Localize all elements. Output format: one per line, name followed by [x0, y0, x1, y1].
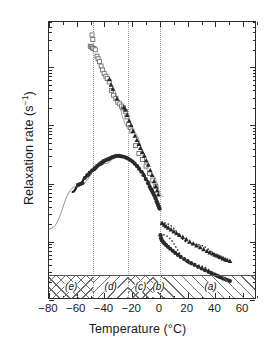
data-point: [99, 64, 103, 68]
x-axis-label: Temperature (°C): [0, 322, 275, 336]
region-label: (b): [153, 282, 164, 292]
data-point: [93, 48, 97, 52]
data-point: [97, 60, 101, 64]
figure-root: Relaxation rate (s−1) Temperature (°C) 1…: [0, 0, 275, 343]
data-point: [146, 181, 150, 185]
region-c: (c): [128, 276, 153, 298]
tick-mark: [257, 22, 258, 25]
data-point: [148, 168, 153, 173]
region-a: (a): [164, 276, 255, 298]
data-point: [91, 38, 95, 42]
tick-mark: [257, 296, 258, 299]
fit-curve: [49, 157, 118, 229]
tick-mark: [250, 300, 255, 301]
series-filled-triangles-lower-right: [160, 220, 233, 263]
plot-area: (e)(d)(c)(b)(a): [48, 21, 256, 299]
x-tick-label: 60: [224, 302, 260, 314]
y-axis-label-exponent: −1: [20, 95, 30, 105]
data-point: [187, 239, 192, 244]
data-point: [179, 255, 183, 259]
series-filled-circles-peak-branch: [76, 154, 162, 211]
region-band: (e)(d)(c)(b)(a): [49, 275, 255, 298]
data-point: [80, 181, 84, 185]
region-b: (b): [153, 276, 164, 298]
region-label: (a): [204, 282, 217, 292]
region-label: (e): [65, 282, 78, 292]
data-point: [138, 145, 143, 150]
y-axis-label-text: Relaxation rate (s: [22, 105, 36, 205]
region-label: (c): [134, 282, 147, 292]
tick-mark: [49, 300, 54, 301]
y-axis-label: Relaxation rate (s−1): [20, 58, 36, 238]
region-d: (d): [93, 276, 128, 298]
region-label: (d): [104, 282, 117, 292]
data-point: [140, 157, 144, 161]
data-point: [141, 173, 145, 177]
data-layer: [49, 22, 257, 300]
y-axis-label-paren: ): [22, 91, 36, 95]
region-e: (e): [49, 276, 93, 298]
data-point: [137, 151, 141, 155]
data-point: [158, 207, 162, 211]
data-point: [144, 177, 148, 181]
data-point: [90, 33, 94, 37]
